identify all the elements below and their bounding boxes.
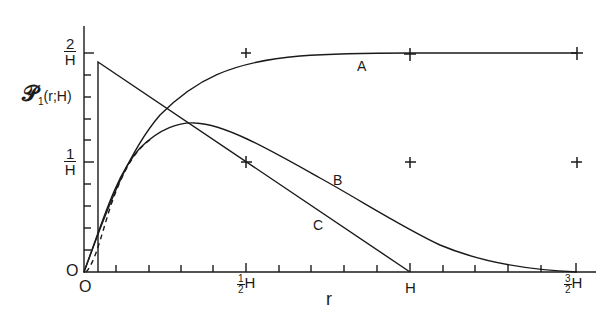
plus-marker-icon	[241, 156, 252, 168]
plus-marker-icon	[404, 48, 416, 61]
plot-canvas	[0, 0, 616, 318]
curve-c-label: C	[313, 217, 323, 233]
plus-marker-icon	[571, 157, 582, 168]
x-tick-label-one: H	[405, 279, 416, 296]
curve-b-label: B	[333, 172, 342, 188]
y-axis-label: 𝒫1(r;H)	[22, 80, 72, 107]
y-origin-label: O	[66, 262, 78, 280]
curve-b	[84, 123, 577, 272]
plus-marker-icon	[241, 48, 251, 58]
plus-marker-icon	[571, 47, 583, 60]
plus-marker-icon	[405, 157, 416, 168]
y-tick-label-2: 2 H	[64, 36, 76, 67]
x-tick-label-threehalf: 32H	[564, 274, 582, 295]
x-tick-label-half: 12H	[237, 274, 255, 295]
x-axis-label: r	[326, 289, 332, 310]
y-label-args: (r;H)	[44, 88, 72, 104]
curve-b-dashed	[86, 140, 150, 272]
x-minor-ticks	[116, 265, 541, 272]
plus-markers	[241, 47, 583, 168]
curve-c	[98, 62, 410, 272]
y-tick-label-1: 1 H	[64, 146, 76, 177]
curve-a	[84, 53, 577, 272]
y-label-main: 𝒫	[22, 80, 38, 106]
x-origin-label: O	[79, 278, 91, 296]
curve-a-label: A	[357, 58, 366, 74]
